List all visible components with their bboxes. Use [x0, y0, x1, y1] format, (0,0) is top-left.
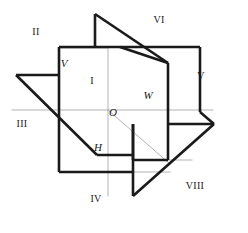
region-label-vi: VI: [153, 14, 164, 25]
region-label-v: V: [197, 70, 205, 81]
region-label-ii: II: [32, 26, 39, 37]
point-label-h: H: [93, 141, 103, 153]
point-label-v: V: [61, 57, 69, 69]
interior-lines-group: [12, 47, 213, 196]
region-label-i: I: [90, 75, 94, 86]
point-label-w: W: [143, 89, 153, 101]
diagram-root: I II III IV V VI VIII V O W H: [0, 0, 248, 233]
region-label-viii: VIII: [186, 180, 204, 191]
point-label-o: O: [109, 106, 117, 118]
region-label-iii: III: [17, 118, 28, 129]
outline-right-spike: [200, 112, 214, 124]
outline-w-slant: [120, 47, 168, 63]
octant-planes-figure: I II III IV V VI VIII V O W H: [0, 0, 248, 233]
region-label-iv: IV: [90, 193, 102, 204]
outline-left-spike: [16, 75, 97, 155]
point-labels-group: V O W H: [61, 57, 154, 153]
